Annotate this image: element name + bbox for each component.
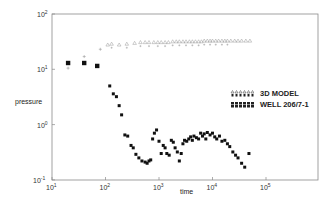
x-axis-title: time — [180, 188, 193, 195]
legend-item-well: WELL 206/7-1 — [230, 99, 309, 110]
x-tick-label: 102 — [100, 182, 111, 191]
triangle-marker-icon — [230, 90, 254, 97]
legend-label: WELL 206/7-1 — [260, 100, 309, 109]
series-3d-model — [67, 39, 252, 70]
y-tick-label: 101 — [37, 64, 48, 73]
legend-label: 3D MODEL — [260, 89, 299, 98]
square-marker-icon — [230, 101, 254, 108]
y-axis-title: pressure — [15, 98, 42, 105]
x-tick-label: 104 — [207, 182, 218, 191]
x-tick-label: 103 — [153, 182, 164, 191]
legend: 3D MODEL WELL 206/7-1 — [230, 88, 309, 110]
y-tick-label: 100 — [37, 120, 48, 129]
y-tick-label: 10-1 — [33, 175, 45, 184]
legend-item-3d-model: 3D MODEL — [230, 88, 309, 99]
x-tick-label: 101 — [46, 182, 57, 191]
series-well — [66, 61, 251, 169]
x-tick-label: 105 — [260, 182, 271, 191]
y-tick-label: 102 — [37, 9, 48, 18]
